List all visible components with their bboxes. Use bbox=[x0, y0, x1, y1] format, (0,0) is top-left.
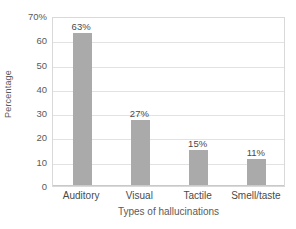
bar-value-label: 15% bbox=[188, 139, 207, 149]
plot-area bbox=[52, 17, 285, 187]
x-axis-tick-label: Visual bbox=[126, 190, 153, 202]
bar[interactable] bbox=[247, 159, 266, 186]
y-axis-tick-label: 70% bbox=[28, 12, 47, 22]
x-axis-tick-label: Tactile bbox=[183, 190, 211, 202]
y-axis-tick-label: 40 bbox=[36, 85, 47, 95]
y-axis-tick-label: 0 bbox=[42, 182, 47, 192]
y-axis-tick-label: 50 bbox=[36, 61, 47, 71]
axis-baseline bbox=[53, 185, 284, 186]
x-axis-tick-label: Auditory bbox=[63, 190, 100, 202]
y-axis-tick-label: 20 bbox=[36, 133, 47, 143]
x-axis-tick-labels: AuditoryVisualTactileSmell/taste bbox=[52, 190, 285, 204]
bar-value-label: 11% bbox=[247, 148, 265, 158]
y-axis-tick-label: 60 bbox=[36, 36, 47, 46]
y-axis-tick-label: 10 bbox=[36, 158, 47, 168]
bar-value-label: 63% bbox=[72, 22, 91, 32]
bar[interactable] bbox=[189, 150, 208, 186]
y-axis-tick-label: 30 bbox=[36, 109, 47, 119]
bar[interactable] bbox=[73, 33, 92, 186]
bar-chart-figure: Percentage 010203040506070% 63%27%15%11%… bbox=[0, 0, 296, 229]
bar[interactable] bbox=[131, 120, 150, 186]
y-axis-title-text: Percentage bbox=[3, 69, 13, 117]
x-axis-tick-label: Smell/taste bbox=[231, 190, 280, 202]
y-axis-title: Percentage bbox=[0, 0, 16, 187]
y-axis-tick-labels: 010203040506070% bbox=[16, 0, 50, 200]
bar-value-label: 27% bbox=[130, 109, 149, 119]
x-axis-title: Types of hallucinations bbox=[52, 206, 285, 217]
